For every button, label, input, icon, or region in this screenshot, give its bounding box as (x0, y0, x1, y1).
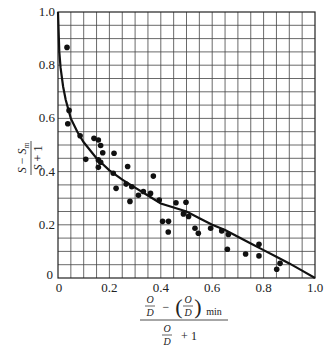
data-point (208, 225, 214, 231)
x-tick-label: 0.2 (101, 280, 117, 295)
y-tick-label: 1.0 (39, 4, 55, 19)
x-axis-ticks: 00.20.40.60.81.0 (56, 280, 323, 295)
data-point (192, 225, 198, 231)
data-point (166, 219, 172, 225)
y-label-denominator: S+ 1 (31, 146, 45, 171)
y-axis-label: S−Sm S+ 1 (15, 141, 45, 175)
data-point (256, 253, 262, 259)
data-point (219, 228, 225, 234)
data-point (256, 241, 262, 247)
y-tick-label: 0.2 (39, 217, 55, 232)
x-label-d2: D (183, 307, 192, 318)
data-point (65, 121, 71, 127)
plot-grid (58, 12, 315, 278)
data-point (96, 137, 102, 143)
data-point (83, 157, 89, 163)
x-label-rparen: ) (194, 294, 201, 319)
data-point (125, 164, 131, 170)
x-label-o1: O (146, 294, 153, 305)
data-point (64, 45, 70, 51)
data-point (196, 231, 202, 237)
data-point (225, 246, 231, 252)
data-point (243, 251, 249, 257)
y-tick-label: 0.8 (39, 57, 55, 72)
x-label-o3: O (163, 323, 170, 334)
x-label-lparen: ( (175, 294, 182, 319)
x-label-minus: − (163, 300, 170, 314)
data-point (129, 184, 135, 190)
data-point (148, 191, 154, 197)
data-point (123, 181, 129, 187)
x-label-o2: O (184, 294, 191, 305)
data-point (181, 211, 187, 217)
y-tick-label: 0 (47, 267, 54, 282)
x-label-d1: D (145, 307, 154, 318)
x-tick-label: 0 (56, 280, 63, 295)
data-point (66, 108, 72, 114)
data-point (186, 214, 192, 220)
x-tick-label: 0.6 (204, 280, 221, 295)
data-point (151, 173, 157, 179)
x-tick-label: 0.4 (153, 280, 170, 295)
data-point (98, 159, 104, 165)
x-axis-label: O D − ( O D ) min O D + 1 (140, 294, 228, 347)
data-point (274, 266, 280, 272)
data-point (156, 197, 162, 203)
data-point (141, 189, 147, 195)
y-label-numerator: S−Sm (15, 143, 31, 174)
data-point (77, 133, 83, 139)
data-point (113, 186, 119, 192)
data-point (110, 170, 116, 176)
data-point (160, 219, 166, 225)
data-point (100, 150, 106, 156)
data-point (183, 199, 189, 205)
data-point (111, 150, 117, 156)
x-tick-label: 1.0 (307, 280, 323, 295)
x-tick-label: 0.8 (255, 280, 271, 295)
data-point (136, 192, 142, 198)
data-point (226, 232, 232, 238)
y-tick-label: 0.6 (39, 110, 56, 125)
y-axis-ticks: 00.20.40.60.81.0 (39, 4, 56, 282)
x-label-plus-one: + 1 (181, 329, 197, 343)
data-point (173, 200, 179, 206)
data-point (127, 199, 133, 205)
x-label-d3: D (162, 336, 171, 347)
data-point (98, 143, 104, 149)
data-point (96, 165, 102, 171)
data-point (165, 229, 171, 235)
x-label-min: min (206, 306, 222, 317)
chart: 00.20.40.60.81.0 00.20.40.60.81.0 S−Sm S… (0, 0, 333, 354)
data-point (277, 261, 283, 267)
